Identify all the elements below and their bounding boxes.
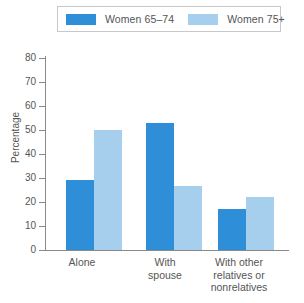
legend-entry-women-75-plus: Women 75+	[188, 7, 285, 31]
bar-women-65-74	[66, 180, 94, 250]
y-axis-tick-label: 10	[25, 221, 36, 231]
x-axis-category-label: Alone	[42, 256, 122, 269]
bar-women-75-plus	[174, 186, 202, 250]
legend-label-women-65-74: Women 65–74	[105, 13, 174, 25]
y-axis-tick-mark	[39, 130, 45, 131]
plot-area	[46, 58, 288, 250]
bar-women-65-74	[146, 123, 174, 250]
y-axis-tick-mark	[39, 154, 45, 155]
legend-entry-women-65-74: Women 65–74	[66, 7, 174, 31]
y-axis-tick-label: 40	[25, 149, 36, 159]
y-axis-tick-label: 0	[30, 245, 36, 255]
legend-swatch-women-65-74-icon	[66, 14, 96, 25]
legend-swatch-women-75-plus-icon	[188, 14, 218, 25]
y-axis-tick-label: 50	[25, 125, 36, 135]
chart-legend: Women 65–74 Women 75+	[57, 6, 281, 32]
y-axis-tick-mark	[39, 106, 45, 107]
y-axis-title: Percentage	[10, 90, 21, 186]
y-axis-tick-mark	[39, 202, 45, 203]
x-axis-line	[45, 250, 289, 251]
y-axis-tick-mark	[39, 58, 45, 59]
bar-women-75-plus	[94, 130, 122, 250]
y-axis-tick-mark	[39, 226, 45, 227]
legend-label-women-75-plus: Women 75+	[227, 13, 285, 25]
y-axis-tick-mark	[39, 82, 45, 83]
y-axis-tick-label: 30	[25, 173, 36, 183]
y-axis-tick-label: 70	[25, 77, 36, 87]
y-axis-tick-label: 80	[25, 53, 36, 63]
y-axis-tick-mark	[39, 250, 45, 251]
y-axis-tick-label: 60	[25, 101, 36, 111]
y-axis-tick-mark	[39, 178, 45, 179]
y-axis-tick-label: 20	[25, 197, 36, 207]
x-axis-category-label: With other relatives or nonrelatives	[193, 256, 285, 294]
bar-women-75-plus	[246, 197, 274, 250]
bar-women-65-74	[218, 209, 246, 250]
